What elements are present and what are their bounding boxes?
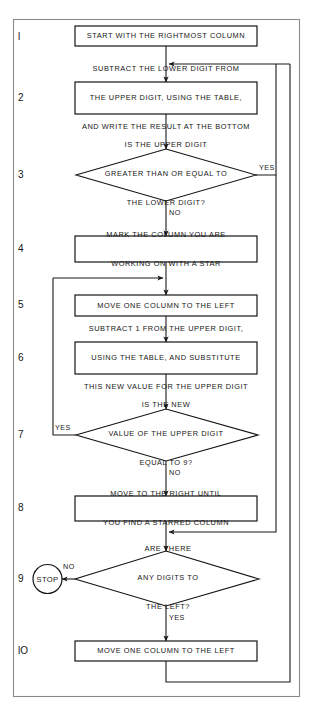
flowchart-canvas: l 2 3 4 5 6 7 8 9 lO START WITH THE RIGH… [0,0,322,710]
node-2-box [75,82,257,114]
node-6-box [75,342,257,374]
stop-terminal-circle [33,565,62,594]
flowchart-graphics [0,0,322,710]
node-1-box [75,26,257,46]
node-5-box [75,295,257,316]
node-4-box [75,236,257,262]
node-8-box [75,496,257,521]
node-10-box [75,641,257,661]
